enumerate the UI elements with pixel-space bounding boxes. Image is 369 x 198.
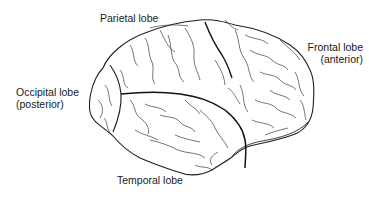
frontal-lobe-text: Frontal lobe bbox=[289, 41, 363, 53]
label-temporal-lobe: Temporal lobe bbox=[117, 174, 183, 186]
occipital-lobe-text: Occipital lobe bbox=[16, 86, 79, 98]
label-parietal-lobe: Parietal lobe bbox=[100, 12, 158, 24]
parietal-lobe-text: Parietal lobe bbox=[100, 12, 158, 24]
label-occipital-lobe: Occipital lobe (posterior) bbox=[16, 86, 79, 110]
label-frontal-lobe: Frontal lobe (anterior) bbox=[289, 41, 363, 65]
brain-diagram: Parietal lobe Frontal lobe (anterior) Oc… bbox=[0, 0, 369, 198]
brain-outline bbox=[89, 20, 313, 175]
temporal-lobe-text: Temporal lobe bbox=[117, 174, 183, 186]
frontal-anterior-text: (anterior) bbox=[289, 53, 363, 65]
occipital-posterior-text: (posterior) bbox=[16, 98, 79, 110]
